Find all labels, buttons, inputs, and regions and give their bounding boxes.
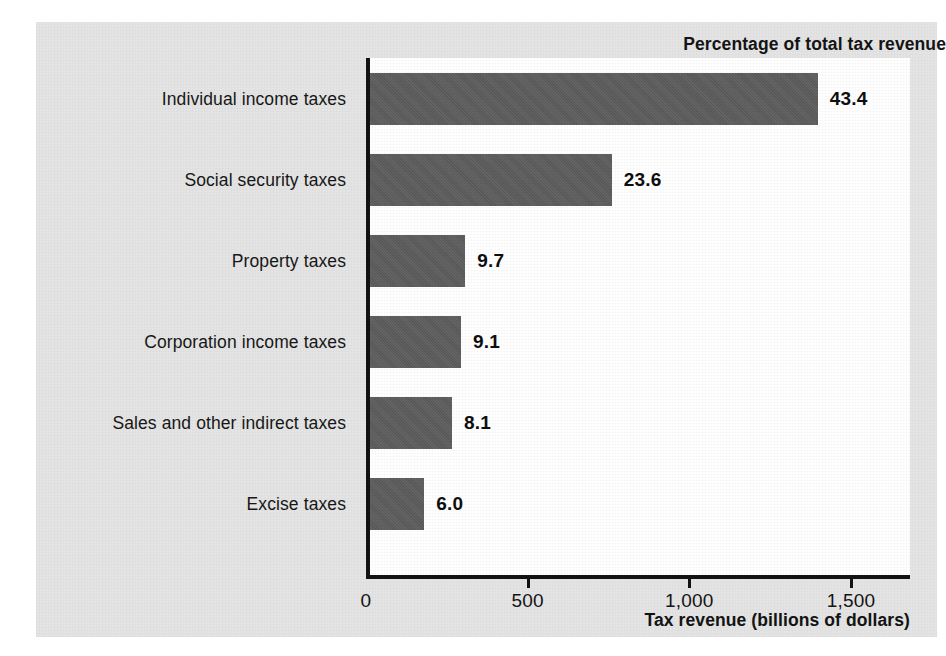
bar-value-label: 9.1 [473, 316, 500, 368]
bar-value-label: 9.7 [477, 235, 504, 287]
bar [366, 397, 452, 449]
x-axis-tick [527, 575, 530, 588]
x-axis-tick [850, 575, 853, 588]
bar [366, 316, 461, 368]
bar-row: 23.6 [366, 154, 910, 206]
bar [366, 235, 465, 287]
chart-title: Percentage of total tax revenue [402, 34, 946, 55]
category-label: Social security taxes [184, 154, 346, 206]
bar-value-label: 8.1 [464, 397, 491, 449]
bar-value-label: 43.4 [830, 73, 868, 125]
category-label: Individual income taxes [162, 73, 346, 125]
bar-row: 6.0 [366, 478, 910, 530]
bar-row: 8.1 [366, 397, 910, 449]
category-label: Excise taxes [247, 478, 346, 530]
x-axis-tick-label: 1,000 [665, 590, 714, 612]
category-label: Corporation income taxes [144, 316, 346, 368]
bar-row: 9.7 [366, 235, 910, 287]
x-axis-tick-label: 0 [361, 590, 372, 612]
x-axis-tick [688, 575, 691, 588]
category-label: Property taxes [232, 235, 346, 287]
bar-value-label: 6.0 [436, 478, 463, 530]
category-axis-labels: Individual income taxesSocial security t… [36, 58, 358, 575]
category-label: Sales and other indirect taxes [112, 397, 346, 449]
x-axis-tick-label: 1,500 [827, 590, 876, 612]
bar [366, 478, 424, 530]
bar [366, 154, 612, 206]
y-axis-line [366, 58, 370, 579]
figure-panel: Percentage of total tax revenue Individu… [36, 22, 937, 637]
bar-value-label: 23.6 [624, 154, 662, 206]
x-axis-title: Tax revenue (billions of dollars) [366, 610, 910, 631]
bar-row: 9.1 [366, 316, 910, 368]
bar-row: 43.4 [366, 73, 910, 125]
x-axis-line [366, 575, 910, 579]
source-note [36, 645, 636, 656]
bar [366, 73, 818, 125]
x-axis-tick-label: 500 [512, 590, 544, 612]
